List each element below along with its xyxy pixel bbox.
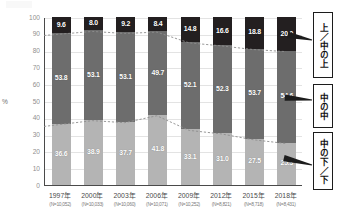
y-axis-tick-label: 70	[14, 65, 40, 72]
bar-value-label: 9.2	[121, 21, 130, 28]
bar-segment: 53.1	[84, 30, 103, 119]
bar-segment: 16.6	[213, 17, 232, 45]
bar-segment: 8.0	[84, 17, 103, 30]
bar-segment: 52.3	[213, 45, 232, 133]
bar-value-label: 53.7	[248, 90, 261, 97]
bar-2012年: 31.052.316.6	[213, 17, 232, 185]
bar-value-label: 53.8	[55, 75, 68, 82]
legend-item-0: 上／中の上	[313, 12, 333, 78]
bar-2009年: 33.152.114.8	[181, 17, 200, 185]
stacked-bar-chart: 0102030405060708090100% 36.653.89.638.95…	[0, 0, 343, 220]
legend-item-label: 中の中	[319, 93, 328, 120]
y-axis-tick-label: 80	[14, 48, 40, 55]
bar-2000年: 38.953.18.0	[84, 17, 103, 185]
bar-value-label: 53.1	[119, 74, 132, 81]
bar-segment: 53.1	[116, 32, 135, 121]
x-axis-sample-size: (N=8,431)	[260, 203, 312, 208]
bar-value-label: 33.1	[184, 154, 197, 161]
y-axis-tick-label: 0	[14, 183, 40, 190]
bar-segment: 14.8	[181, 17, 200, 42]
bar-value-label: 53.1	[87, 72, 100, 79]
bar-value-label: 41.8	[152, 146, 165, 153]
bar-segment: 8.4	[148, 17, 167, 31]
bar-segment: 49.7	[148, 31, 167, 114]
bar-2006年: 41.849.78.4	[148, 17, 167, 185]
bar-value-label: 38.9	[87, 149, 100, 156]
bar-value-label: 14.8	[184, 26, 197, 33]
bar-value-label: 54.6	[281, 93, 294, 100]
bar-2003年: 37.753.19.2	[116, 17, 135, 185]
bar-segment: 54.6	[277, 51, 296, 143]
bar-segment: 27.5	[245, 139, 264, 185]
bar-2018年: 25.354.620.0	[277, 17, 296, 185]
y-axis-tick-label: 50	[14, 99, 40, 106]
bar-value-label: 20.0	[281, 31, 294, 38]
y-axis-tick-label: 20	[14, 149, 40, 156]
bar-segment: 20.0	[277, 17, 296, 51]
bar-segment: 52.1	[181, 42, 200, 130]
bar-value-label: 52.1	[184, 82, 197, 89]
legend-item-1: 中の中	[313, 84, 333, 128]
bar-value-label: 25.3	[281, 160, 294, 167]
bar-value-label: 49.7	[152, 70, 165, 77]
bar-value-label: 52.3	[216, 86, 229, 93]
bar-value-label: 36.6	[55, 151, 68, 158]
bar-segment: 9.6	[52, 17, 71, 33]
bar-2015年: 27.553.718.8	[245, 17, 264, 185]
legend-item-2: 中の下／下	[313, 132, 333, 190]
bar-segment: 31.0	[213, 133, 232, 185]
bar-segment: 9.2	[116, 17, 135, 32]
bar-value-label: 16.6	[216, 28, 229, 35]
bar-segment: 53.8	[52, 33, 71, 123]
bar-segment: 25.3	[277, 143, 296, 186]
bar-segment: 37.7	[116, 122, 135, 185]
bar-value-label: 37.7	[119, 150, 132, 157]
legend-item-label: 上／中の上	[319, 23, 328, 68]
x-axis-tick-label: 2018年	[263, 193, 309, 200]
legend-item-label: 中の下／下	[319, 139, 328, 184]
bar-value-label: 8.0	[89, 20, 98, 27]
bar-segment: 41.8	[148, 115, 167, 185]
bar-value-label: 27.5	[248, 158, 261, 165]
bar-value-label: 31.0	[216, 156, 229, 163]
y-axis-tick-label: 40	[14, 115, 40, 122]
y-axis-tick-label: 30	[14, 132, 40, 139]
bar-segment: 36.6	[52, 124, 71, 185]
bar-segment: 33.1	[181, 129, 200, 185]
bar-value-label: 8.4	[153, 21, 162, 28]
bar-1997年: 36.653.89.6	[52, 17, 71, 185]
bar-segment: 53.7	[245, 49, 264, 139]
y-axis-tick-label: 60	[14, 82, 40, 89]
bar-value-label: 9.6	[57, 22, 66, 29]
y-axis-tick-label: 10	[14, 166, 40, 173]
y-axis-tick-label: 90	[14, 31, 40, 38]
y-axis-unit-label: %	[2, 99, 8, 106]
plot-area: 36.653.89.638.953.18.037.753.19.241.849.…	[44, 18, 302, 186]
bar-value-label: 18.8	[248, 29, 261, 36]
y-axis-tick-label: 100	[14, 15, 40, 22]
bar-segment: 18.8	[245, 17, 264, 49]
corner-artifact	[6, 1, 32, 8]
bar-segment: 38.9	[84, 120, 103, 185]
